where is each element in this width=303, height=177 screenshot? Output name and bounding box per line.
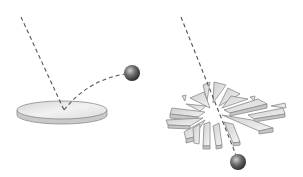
ball [230, 154, 246, 170]
intact-disc [17, 101, 107, 124]
intact-panel [17, 17, 140, 124]
incoming-trajectory [21, 17, 64, 110]
diagram-canvas: Intact disc: ball deflects off surface S… [0, 0, 303, 177]
disc-fragments [166, 82, 286, 149]
ball [124, 65, 140, 81]
diagram-svg [0, 0, 303, 177]
shattered-panel [166, 17, 286, 170]
